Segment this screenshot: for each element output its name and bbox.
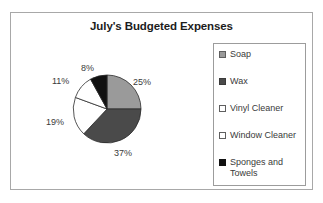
- chart-frame: July's Budgeted Expenses 25% 37% 19% 11%…: [10, 12, 313, 190]
- chart-legend: Soap Wax Vinyl Cleaner Window Cleaner Sp…: [213, 43, 306, 186]
- legend-swatch-icon-vinyl-cleaner: [219, 105, 226, 112]
- legend-swatch-icon-wax: [219, 78, 226, 85]
- legend-label-sponges-and-towels: Sponges and Towels: [230, 157, 302, 179]
- legend-label-vinyl-cleaner: Vinyl Cleaner: [230, 103, 283, 114]
- legend-item-vinyl-cleaner[interactable]: Vinyl Cleaner: [214, 103, 305, 130]
- pie-label-soap: 25%: [133, 77, 151, 87]
- legend-label-window-cleaner: Window Cleaner: [230, 130, 296, 141]
- pie-label-window-cleaner: 11%: [52, 76, 69, 86]
- legend-item-sponges-and-towels[interactable]: Sponges and Towels: [214, 157, 305, 184]
- legend-label-wax: Wax: [230, 76, 248, 87]
- legend-swatch-icon-soap: [219, 51, 226, 58]
- chart-title: July's Budgeted Expenses: [11, 20, 312, 32]
- pie-label-wax: 37%: [114, 148, 132, 158]
- pie-label-sponges-and-towels: 8%: [81, 63, 94, 73]
- pie-label-vinyl-cleaner: 19%: [46, 117, 64, 127]
- legend-item-window-cleaner[interactable]: Window Cleaner: [214, 130, 305, 157]
- pie-plot-area: 25% 37% 19% 11% 8%: [11, 35, 211, 189]
- legend-swatch-icon-sponges-and-towels: [219, 159, 226, 166]
- legend-item-wax[interactable]: Wax: [214, 76, 305, 103]
- legend-label-soap: Soap: [230, 49, 251, 60]
- legend-item-soap[interactable]: Soap: [214, 49, 305, 76]
- legend-swatch-icon-window-cleaner: [219, 132, 226, 139]
